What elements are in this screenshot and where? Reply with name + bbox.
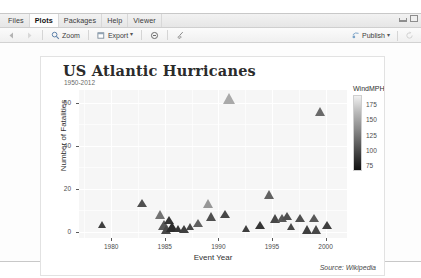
gridline-vertical bbox=[111, 90, 112, 238]
plot-canvas[interactable]: US Atlantic Hurricanes 1950-2012 Number … bbox=[40, 56, 385, 276]
data-point-marker bbox=[98, 221, 106, 228]
x-axis-tick-label: 2000 bbox=[318, 243, 332, 250]
data-point-marker bbox=[220, 210, 230, 218]
tab-viewer[interactable]: Viewer bbox=[128, 14, 161, 27]
tab-plots-label: Plots bbox=[35, 16, 53, 25]
data-point-marker bbox=[295, 214, 305, 222]
data-point-marker bbox=[203, 199, 213, 208]
toolbar-divider-4 bbox=[167, 30, 168, 40]
y-axis-tick-mark bbox=[76, 146, 79, 147]
gridline-horizontal bbox=[79, 103, 347, 104]
chart-caption: Source: Wikipedia bbox=[320, 264, 376, 271]
export-button-label: Export bbox=[108, 32, 128, 39]
tab-files-label: Files bbox=[8, 16, 24, 25]
back-arrow-icon bbox=[7, 31, 16, 40]
legend-tick-mark bbox=[362, 135, 365, 136]
data-point-marker bbox=[264, 190, 274, 199]
toolbar-right-group: Publish ▾ bbox=[348, 28, 417, 43]
gridline-vertical-minor bbox=[192, 90, 193, 238]
x-axis-tick-mark bbox=[272, 238, 273, 241]
data-point-marker bbox=[137, 199, 147, 207]
tab-packages[interactable]: Packages bbox=[59, 14, 102, 27]
gridline-vertical-minor bbox=[245, 90, 246, 238]
legend-tick-label: 175 bbox=[366, 101, 377, 108]
y-axis-tick-label: 20 bbox=[64, 185, 71, 192]
gridline-vertical-minor bbox=[138, 90, 139, 238]
toolbar-divider-2 bbox=[88, 30, 89, 40]
legend-tick-mark bbox=[362, 119, 365, 120]
export-button[interactable]: Export ▾ bbox=[94, 29, 136, 41]
x-axis-tick-label: 1990 bbox=[211, 243, 225, 250]
plot-panel bbox=[79, 90, 347, 238]
forward-button[interactable] bbox=[22, 29, 37, 41]
x-axis-tick-label: 1995 bbox=[265, 243, 279, 250]
gridline-vertical bbox=[326, 90, 327, 238]
x-axis-tick-mark bbox=[111, 238, 112, 241]
tab-help[interactable]: Help bbox=[102, 14, 128, 27]
tab-plots[interactable]: Plots bbox=[30, 14, 59, 27]
gridline-vertical-minor bbox=[84, 90, 85, 238]
chart-title: US Atlantic Hurricanes bbox=[63, 62, 256, 79]
gridline-horizontal-minor bbox=[79, 124, 347, 125]
publish-icon bbox=[351, 31, 360, 40]
tab-files[interactable]: Files bbox=[3, 14, 30, 27]
tab-viewer-label: Viewer bbox=[133, 16, 155, 25]
publish-button[interactable]: Publish ▾ bbox=[348, 30, 393, 42]
legend-title: WindMPH bbox=[353, 85, 385, 92]
x-axis-tick-mark bbox=[165, 238, 166, 241]
window-controls bbox=[399, 15, 418, 22]
gridline-horizontal bbox=[79, 189, 347, 190]
refresh-icon bbox=[405, 31, 414, 40]
broom-clear-icon bbox=[176, 31, 185, 40]
y-axis-tick-mark bbox=[76, 232, 79, 233]
toolbar-divider-1 bbox=[42, 30, 43, 40]
data-point-marker bbox=[287, 223, 295, 230]
plots-pane: Files Plots Packages Help Viewer bbox=[0, 13, 421, 262]
data-point-marker bbox=[223, 93, 235, 104]
plots-toolbar: Zoom Export ▾ bbox=[0, 28, 421, 43]
data-point-marker bbox=[255, 221, 265, 229]
legend-tick-label: 100 bbox=[366, 146, 377, 153]
y-axis-tick-label: 40 bbox=[64, 142, 71, 149]
publish-button-label: Publish bbox=[362, 32, 385, 39]
forward-arrow-icon bbox=[25, 31, 34, 40]
gridline-horizontal-minor bbox=[79, 167, 347, 168]
data-point-marker bbox=[309, 214, 319, 222]
legend-tick-label: 75 bbox=[366, 161, 373, 168]
zoom-button-label: Zoom bbox=[62, 32, 80, 39]
gridline-horizontal bbox=[79, 146, 347, 147]
y-axis-tick-mark bbox=[76, 189, 79, 190]
x-axis-title: Event Year bbox=[79, 253, 347, 262]
refresh-button[interactable] bbox=[402, 30, 417, 42]
y-axis-tick-mark bbox=[76, 103, 79, 104]
toolbar-divider-5 bbox=[397, 31, 398, 41]
magnifier-icon bbox=[51, 31, 60, 40]
x-axis-tick-mark bbox=[326, 238, 327, 241]
data-point-marker bbox=[311, 225, 321, 234]
rstudio-plots-pane: Files Plots Packages Help Viewer bbox=[0, 0, 421, 278]
zoom-button[interactable]: Zoom bbox=[48, 29, 83, 41]
data-point-marker bbox=[302, 225, 312, 234]
back-button[interactable] bbox=[4, 29, 19, 41]
data-point-marker bbox=[282, 212, 292, 220]
legend-windmph: WindMPH 17515012510075 bbox=[353, 85, 385, 171]
data-point-marker bbox=[315, 107, 325, 116]
minimize-icon[interactable] bbox=[399, 18, 407, 22]
y-axis-title: Number of Fatalities bbox=[59, 76, 68, 196]
remove-plot-icon bbox=[150, 31, 159, 40]
legend-tick-label: 125 bbox=[366, 131, 377, 138]
tab-help-label: Help bbox=[107, 16, 122, 25]
export-icon bbox=[97, 31, 106, 40]
data-point-marker bbox=[206, 212, 216, 221]
remove-plot-button[interactable] bbox=[147, 29, 162, 41]
clear-plots-button[interactable] bbox=[173, 29, 188, 41]
data-point-marker bbox=[193, 219, 203, 227]
maximize-icon[interactable] bbox=[410, 15, 418, 22]
legend-colorbar bbox=[353, 95, 362, 171]
legend-tick-mark bbox=[362, 104, 365, 105]
pane-tabbar: Files Plots Packages Help Viewer bbox=[0, 14, 421, 28]
chart-subtitle: 1950-2012 bbox=[64, 79, 95, 86]
x-axis-tick-label: 1980 bbox=[104, 243, 118, 250]
toolbar-divider-3 bbox=[141, 30, 142, 40]
legend-colorbar-wrap: 17515012510075 bbox=[353, 95, 385, 171]
